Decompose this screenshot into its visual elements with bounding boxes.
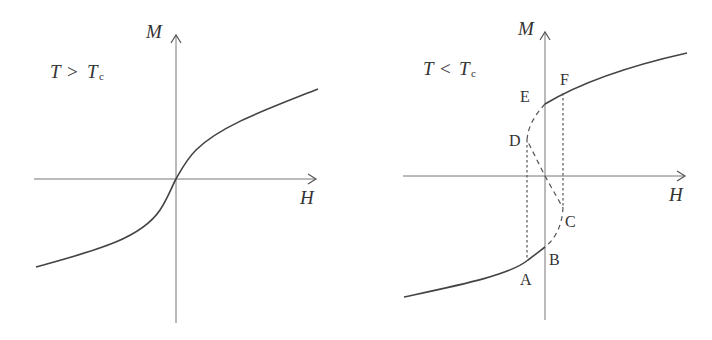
point-label-f: F [560, 71, 569, 88]
right-condition-label: T < T c [423, 58, 476, 79]
svg-text:c: c [99, 70, 104, 82]
point-label-d: D [509, 132, 521, 149]
svg-text:T: T [87, 61, 99, 82]
left-condition-label: T > T c [50, 61, 104, 82]
left-m-label: M [145, 21, 163, 42]
svg-text:c: c [471, 67, 476, 79]
svg-text:<: < [440, 58, 451, 79]
svg-text:T: T [423, 58, 435, 79]
svg-text:>: > [67, 61, 78, 82]
figure-canvas: M H T > T c M H T < T c E F D C B [0, 0, 712, 340]
svg-text:T: T [459, 58, 471, 79]
left-panel: M H T > T c [34, 21, 318, 323]
point-label-b: B [549, 251, 560, 268]
right-panel: M H T < T c E F D C B A [403, 18, 687, 320]
point-label-c: C [565, 213, 576, 230]
point-label-a: A [520, 271, 532, 288]
point-label-e: E [520, 88, 530, 105]
left-h-label: H [299, 187, 315, 208]
left-magnetization-curve [36, 89, 318, 267]
right-h-label: H [668, 184, 684, 205]
svg-text:T: T [50, 61, 62, 82]
right-m-label: M [517, 18, 535, 39]
